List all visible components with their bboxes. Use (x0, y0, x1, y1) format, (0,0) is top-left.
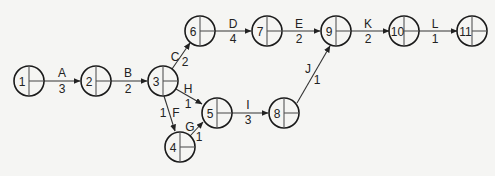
node-7-label: 7 (257, 25, 264, 39)
edge-I-activity: I (246, 98, 249, 112)
node-6: 6 (185, 16, 215, 46)
node-8-label: 8 (274, 107, 281, 121)
edge-C: C 2 (171, 43, 190, 69)
edge-D-duration: 4 (230, 32, 237, 46)
node-5: 5 (202, 98, 232, 128)
node-5-label: 5 (207, 107, 214, 121)
node-4: 4 (165, 132, 195, 162)
node-10-label: 10 (391, 25, 405, 39)
node-1: 1 (14, 66, 44, 96)
edge-I-duration: 3 (245, 113, 252, 127)
edge-F: F 1 (160, 96, 180, 131)
edge-H: H 1 (176, 82, 202, 111)
edge-J-activity: J (305, 62, 311, 76)
node-1-label: 1 (19, 75, 26, 89)
node-3: 3 (148, 66, 178, 96)
node-9: 9 (321, 16, 351, 46)
edge-A: A 3 (44, 66, 80, 96)
node-6-label: 6 (190, 25, 197, 39)
edge-A-activity: A (58, 66, 66, 80)
node-7: 7 (252, 16, 282, 46)
node-11-label: 11 (459, 25, 472, 39)
edge-L-duration: 1 (432, 32, 439, 46)
node-3-label: 3 (153, 75, 160, 89)
edge-L-activity: L (432, 17, 439, 31)
edge-C-duration: 2 (182, 55, 189, 69)
edge-D: D 4 (215, 17, 251, 46)
edge-B-duration: 2 (125, 82, 132, 96)
edge-K-duration: 2 (365, 32, 372, 46)
edge-H-duration: 1 (185, 97, 192, 111)
edge-J: J 1 (297, 46, 330, 103)
node-2-label: 2 (86, 75, 93, 89)
edge-K-activity: K (364, 17, 372, 31)
node-8: 8 (269, 98, 299, 128)
edge-L: L 1 (419, 17, 457, 46)
edge-I: I 3 (232, 98, 268, 127)
edge-B: B 2 (111, 66, 147, 96)
node-10: 10 (389, 16, 419, 46)
node-2: 2 (81, 66, 111, 96)
edge-F-duration: 1 (160, 106, 167, 120)
edge-J-duration: 1 (314, 73, 321, 87)
edge-C-activity: C (171, 50, 180, 64)
edge-G-duration: 1 (196, 130, 203, 144)
node-9-label: 9 (326, 25, 333, 39)
edge-G-activity: G (185, 120, 194, 134)
edge-B-activity: B (124, 66, 132, 80)
edge-E: E 2 (283, 17, 320, 46)
network-diagram: A 3 B 2 C 2 D 4 E 2 F 1 G 1 H 1 I 3 (0, 0, 495, 176)
edge-E-duration: 2 (296, 32, 303, 46)
edge-A-duration: 3 (59, 82, 66, 96)
node-11: 11 (457, 16, 487, 46)
edge-E-activity: E (295, 17, 303, 31)
edge-H-activity: H (184, 82, 193, 96)
edge-D-activity: D (229, 17, 238, 31)
edge-K: K 2 (351, 17, 389, 46)
edge-F-activity: F (172, 106, 179, 120)
node-4-label: 4 (170, 141, 177, 155)
